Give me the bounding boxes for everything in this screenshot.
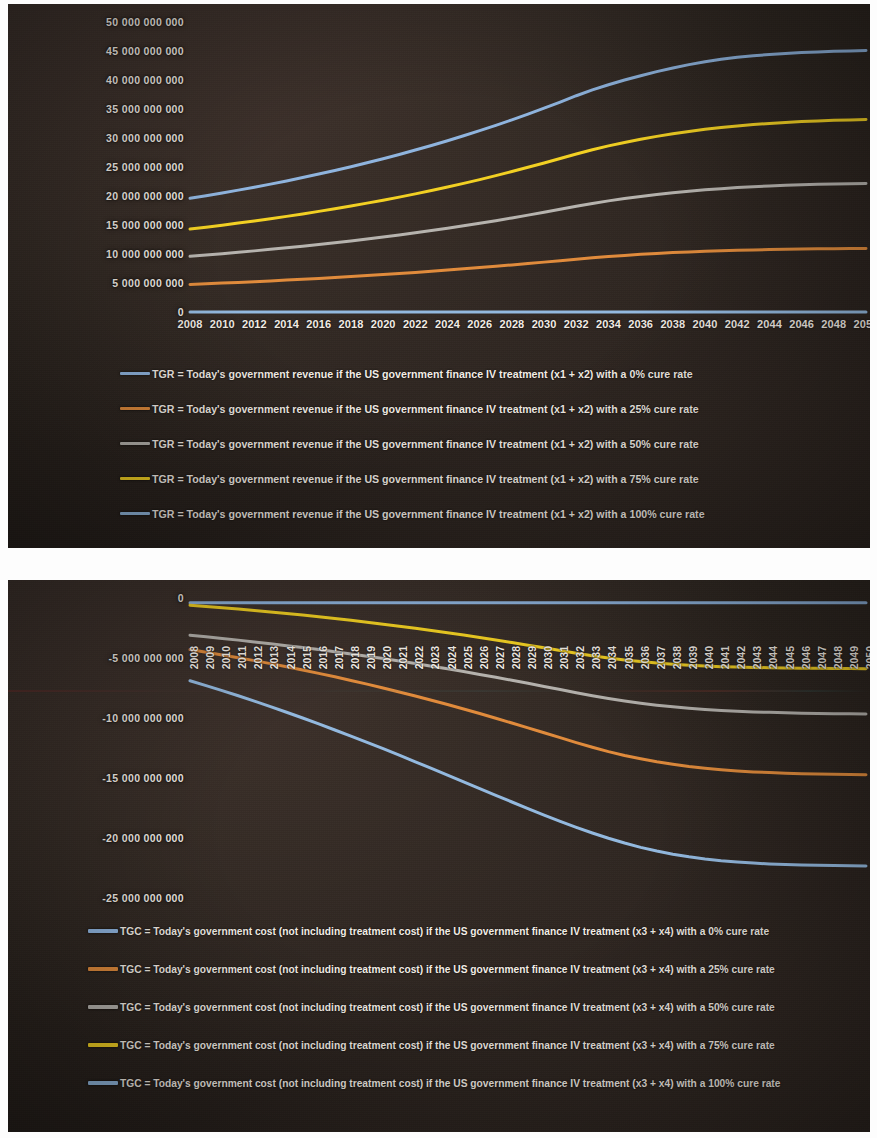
x-axis-tick-label: 2011 <box>236 646 248 669</box>
y-axis-tick-label: 40 000 000 000 <box>106 74 184 86</box>
x-axis-tick-label: 2023 <box>429 646 441 669</box>
legend-item[interactable]: TGR = Today's government revenue if the … <box>120 391 860 426</box>
y-axis-tick-label: -5 000 000 000 <box>108 652 184 664</box>
series-line-1 <box>190 248 866 284</box>
x-axis-tick-label: 2012 <box>252 646 264 669</box>
legend-item-label: TGR = Today's government revenue if the … <box>152 508 705 520</box>
x-axis-tick-label: 2018 <box>349 646 361 669</box>
x-axis-tick-label: 2044 <box>757 318 782 330</box>
legend-item-label: TGC = Today's government cost (not inclu… <box>120 926 769 937</box>
legend-color-swatch-icon <box>88 1043 118 1047</box>
y-axis-tick-label: 15 000 000 000 <box>106 219 184 231</box>
x-axis-tick-label: 2045 <box>784 646 796 669</box>
legend-item[interactable]: TGC = Today's government cost (not inclu… <box>88 950 864 988</box>
y-axis-tick-label: 30 000 000 000 <box>106 132 184 144</box>
x-axis-tick-label: 2042 <box>725 318 750 330</box>
y-axis-tick-label: 35 000 000 000 <box>106 103 184 115</box>
x-axis-tick-label: 2021 <box>397 646 409 669</box>
legend-item-label: TGR = Today's government revenue if the … <box>152 368 693 380</box>
legend-color-swatch-icon <box>88 1005 118 1009</box>
legend-item-label: TGR = Today's government revenue if the … <box>152 473 699 485</box>
legend-item[interactable]: TGC = Today's government cost (not inclu… <box>88 1026 864 1064</box>
x-axis-tick-label: 2038 <box>671 646 683 669</box>
x-axis-tick-label: 2009 <box>204 646 216 669</box>
legend-color-swatch-icon <box>120 477 150 481</box>
x-axis-tick-label: 2048 <box>821 318 846 330</box>
y-axis-tick-label: -25 000 000 000 <box>102 892 184 904</box>
chart-panel-revenue: 50 000 000 00045 000 000 00040 000 000 0… <box>8 4 870 548</box>
x-axis-tick-label: 2043 <box>751 646 763 669</box>
chart-panel-cost: 0-5 000 000 000-10 000 000 000-15 000 00… <box>8 580 870 1132</box>
legend-color-swatch-icon <box>88 929 118 933</box>
x-axis-tick-label: 2032 <box>564 318 589 330</box>
x-axis-tick-label: 2025 <box>462 646 474 669</box>
legend-item[interactable]: TGC = Today's government cost (not inclu… <box>88 912 864 950</box>
legend-item[interactable]: TGR = Today's government revenue if the … <box>120 426 860 461</box>
x-axis-tick-label: 2020 <box>371 318 396 330</box>
x-axis-tick-label: 2018 <box>339 318 364 330</box>
x-axis-tick-label: 2038 <box>660 318 685 330</box>
legend-item-label: TGC = Today's government cost (not inclu… <box>120 964 775 975</box>
y-axis-tick-label: 10 000 000 000 <box>106 248 184 260</box>
x-axis-tick-label: 2034 <box>606 646 618 669</box>
x-axis-tick-label: 2040 <box>703 646 715 669</box>
legend-chart1: TGR = Today's government revenue if the … <box>120 356 860 531</box>
x-axis-tick-label: 2037 <box>655 646 667 669</box>
x-axis-tick-label: 2024 <box>435 318 460 330</box>
series-line-3 <box>190 120 866 230</box>
legend-color-swatch-icon <box>88 967 118 971</box>
x-axis-tick-label: 2047 <box>816 646 828 669</box>
legend-color-swatch-icon <box>120 407 150 411</box>
legend-item[interactable]: TGR = Today's government revenue if the … <box>120 461 860 496</box>
x-axis-tick-label: 2016 <box>317 646 329 669</box>
legend-item[interactable]: TGC = Today's government cost (not inclu… <box>88 1064 864 1102</box>
x-axis-tick-label: 2013 <box>268 646 280 669</box>
legend-item[interactable]: TGR = Today's government revenue if the … <box>120 496 860 531</box>
x-axis-tick-label: 2030 <box>542 646 554 669</box>
legend-chart2: TGC = Today's government cost (not inclu… <box>88 912 864 1102</box>
legend-item-label: TGR = Today's government revenue if the … <box>152 438 699 450</box>
y-axis-tick-label: 0 <box>178 592 184 604</box>
legend-color-swatch-icon <box>120 442 150 446</box>
y-axis-tick-label: -15 000 000 000 <box>102 772 184 784</box>
legend-item[interactable]: TGR = Today's government revenue if the … <box>120 356 860 391</box>
y-axis-tick-label: 25 000 000 000 <box>106 161 184 173</box>
x-axis-tick-label: 2042 <box>735 646 747 669</box>
x-axis-tick-label: 2029 <box>526 646 538 669</box>
legend-item-label: TGC = Today's government cost (not inclu… <box>120 1078 780 1089</box>
x-axis-tick-label: 2030 <box>532 318 557 330</box>
x-axis-tick-label: 2010 <box>210 318 235 330</box>
x-axis-tick-label: 2014 <box>285 646 297 669</box>
x-axis-tick-label: 2033 <box>590 646 602 669</box>
x-axis-tick-label: 2026 <box>478 646 490 669</box>
legend-item[interactable]: TGC = Today's government cost (not inclu… <box>88 988 864 1026</box>
y-axis-tick-label: 5 000 000 000 <box>112 277 184 289</box>
x-axis-tick-label: 2041 <box>719 646 731 669</box>
legend-item-label: TGC = Today's government cost (not inclu… <box>120 1002 775 1013</box>
x-axis-tick-label: 2034 <box>596 318 621 330</box>
legend-item-label: TGR = Today's government revenue if the … <box>152 403 699 415</box>
legend-color-swatch-icon <box>88 1081 118 1085</box>
x-axis-tick-label: 2036 <box>639 646 651 669</box>
x-axis-tick-label: 2008 <box>178 318 203 330</box>
x-axis-tick-label: 2022 <box>413 646 425 669</box>
legend-item-label: TGC = Today's government cost (not inclu… <box>120 1040 775 1051</box>
y-axis-tick-label: 45 000 000 000 <box>106 45 184 57</box>
x-axis-tick-label: 2036 <box>628 318 653 330</box>
x-axis-tick-label: 2012 <box>242 318 267 330</box>
x-axis-tick-label: 2019 <box>365 646 377 669</box>
x-axis-tick-label: 2050 <box>864 646 870 669</box>
x-axis-tick-label: 2027 <box>494 646 506 669</box>
x-axis-tick-label: 2050 <box>854 318 870 330</box>
x-axis-tick-label: 2046 <box>800 646 812 669</box>
x-axis-tick-label: 2008 <box>188 646 200 669</box>
x-axis-tick-label: 2010 <box>220 646 232 669</box>
x-axis-tick-label: 2026 <box>467 318 492 330</box>
x-axis-tick-label: 2017 <box>333 646 345 669</box>
x-axis-tick-label: 2044 <box>767 646 779 669</box>
x-axis-tick-label: 2016 <box>306 318 331 330</box>
scanned-chart-page: 50 000 000 00045 000 000 00040 000 000 0… <box>0 0 877 1138</box>
legend-color-swatch-icon <box>120 372 150 376</box>
y-axis-tick-label: 20 000 000 000 <box>106 190 184 202</box>
plot-area-chart1 <box>190 22 866 312</box>
